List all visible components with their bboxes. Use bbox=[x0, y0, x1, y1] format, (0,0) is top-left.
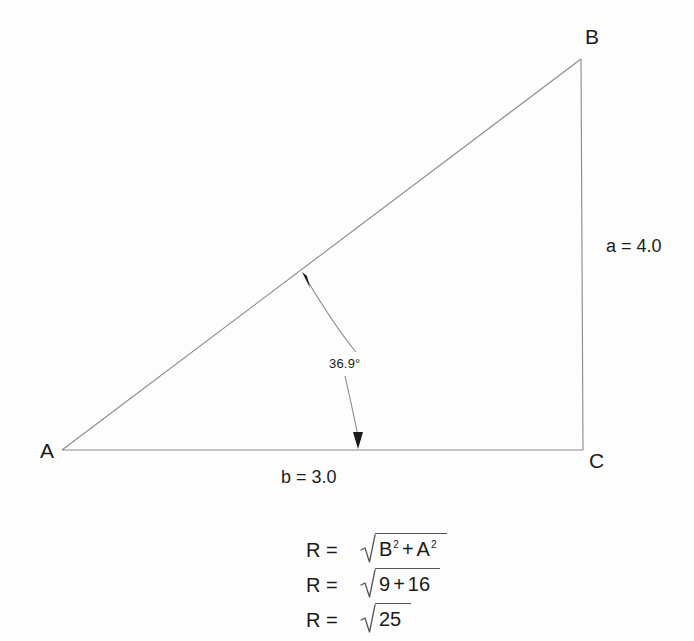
radicand: 25 bbox=[375, 603, 411, 632]
equation-lhs: R = bbox=[306, 601, 360, 634]
radical-sign-icon bbox=[360, 533, 376, 563]
figure-canvas: A B C a = 4.0 b = 3.0 36.9° R = B2+A2 R … bbox=[0, 0, 694, 641]
equation-block: R = B2+A2 R = 9+16 R = bbox=[306, 531, 566, 636]
radical-expression: B2+A2 bbox=[360, 531, 447, 563]
equation-row: R = 9+16 bbox=[306, 566, 566, 601]
angle-label: 36.9° bbox=[329, 357, 361, 370]
vertex-label-c: C bbox=[589, 450, 604, 471]
hypotenuse-line bbox=[62, 59, 581, 450]
angle-arrow-lower bbox=[353, 432, 363, 449]
radical-sign-icon bbox=[360, 568, 376, 598]
radicand-operator: + bbox=[399, 538, 417, 560]
radicand-term: 25 bbox=[379, 608, 401, 630]
side-label-b: b = 3.0 bbox=[281, 468, 337, 486]
angle-arc-upper bbox=[307, 280, 356, 352]
equation-row: R = 25 bbox=[306, 601, 566, 636]
vertex-label-b: B bbox=[585, 26, 599, 47]
radical-expression: 9+16 bbox=[360, 566, 440, 598]
equation-lhs: R = bbox=[306, 566, 360, 599]
angle-arrow-upper bbox=[302, 272, 310, 288]
angle-arc-lower bbox=[345, 376, 358, 437]
equation-row: R = B2+A2 bbox=[306, 531, 566, 566]
radicand: 9+16 bbox=[375, 568, 440, 597]
radicand-exponent: 2 bbox=[431, 539, 437, 550]
radicand: B2+A2 bbox=[375, 533, 447, 562]
radical-sign-icon bbox=[360, 603, 376, 633]
radicand-operator: + bbox=[390, 573, 408, 595]
side-label-a: a = 4.0 bbox=[606, 237, 662, 255]
radicand-term: 9 bbox=[379, 573, 390, 595]
radicand-term: A bbox=[417, 538, 430, 560]
radical-expression: 25 bbox=[360, 601, 411, 633]
vertex-label-a: A bbox=[40, 440, 54, 461]
radicand-term: 16 bbox=[408, 573, 430, 595]
side-a-line bbox=[581, 59, 583, 450]
radicand-term: B bbox=[379, 538, 392, 560]
equation-lhs: R = bbox=[306, 531, 360, 564]
